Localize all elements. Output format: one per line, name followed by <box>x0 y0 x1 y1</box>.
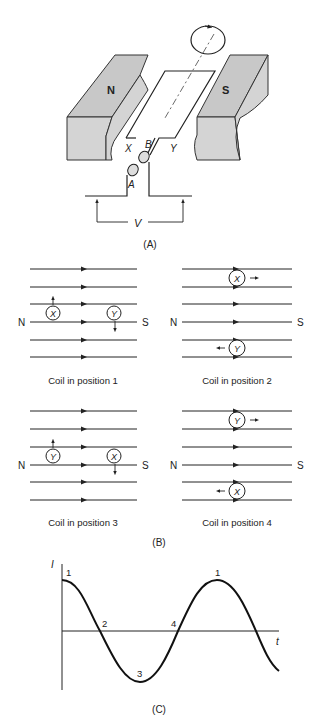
conductor-label: X <box>110 452 118 462</box>
lead-b <box>149 162 192 196</box>
x-axis-label: t <box>276 636 280 647</box>
north-pole-label: N <box>107 84 115 96</box>
lead-a <box>85 175 127 196</box>
point-label-1b: 1 <box>215 567 220 578</box>
south-label: S <box>142 460 149 471</box>
south-label: S <box>297 460 304 471</box>
north-label: N <box>170 317 177 328</box>
coil-side-x-label: X <box>124 143 132 154</box>
conductor-label: Y <box>234 416 241 426</box>
conductor-label: Y <box>234 344 241 354</box>
voltage-label: V <box>134 217 143 229</box>
point-label-3: 3 <box>137 668 142 679</box>
field-arrows-icon <box>81 409 87 503</box>
conductor-label: Y <box>50 452 57 462</box>
slip-ring-a-label: A <box>127 179 135 190</box>
point-label-1: 1 <box>66 567 71 578</box>
point-label-2: 2 <box>102 618 107 629</box>
current-waveform-graph: I t 1 2 3 4 1 (C) <box>51 559 280 715</box>
ac-generator-figure: N S X B Y A V (A) <box>0 0 318 721</box>
south-label: S <box>142 317 149 328</box>
coil-position-4: N S Y X Coil in position 4 <box>170 409 304 529</box>
panel-c-label: (C) <box>152 704 166 715</box>
rotation-arrow-icon <box>191 26 225 54</box>
coil-position-3: N S Y X Coil in position 3 <box>18 409 149 529</box>
south-label: S <box>297 317 304 328</box>
conductor-label: X <box>233 487 241 497</box>
north-label: N <box>18 317 25 328</box>
south-pole-label: S <box>222 84 229 96</box>
point-label-4: 4 <box>171 618 176 629</box>
panel-b-label: (B) <box>152 537 165 548</box>
generator-diagram: N S X B Y A V (A) <box>67 26 268 250</box>
north-label: N <box>18 460 25 471</box>
position-caption: Coil in position 1 <box>48 375 118 386</box>
conductor-label: X <box>49 309 57 319</box>
north-label: N <box>170 460 177 471</box>
panel-a-label: (A) <box>143 239 156 250</box>
conductor-label: X <box>233 274 241 284</box>
field-arrows-icon <box>81 267 87 360</box>
north-magnet: N <box>67 55 148 160</box>
coil-position-1: N S X Y Coil in position 1 <box>18 267 149 387</box>
slip-ring-b-label: B <box>145 139 152 150</box>
position-caption: Coil in position 3 <box>48 517 118 528</box>
y-axis-label: I <box>51 559 54 570</box>
coil-side-y-label: Y <box>170 143 178 154</box>
coil-position-2: N S X Y Coil in position 2 <box>170 267 304 387</box>
position-caption: Coil in position 4 <box>202 517 272 528</box>
slip-ring-a <box>126 162 141 177</box>
position-caption: Coil in position 2 <box>202 375 272 386</box>
conductor-label: Y <box>111 309 118 319</box>
